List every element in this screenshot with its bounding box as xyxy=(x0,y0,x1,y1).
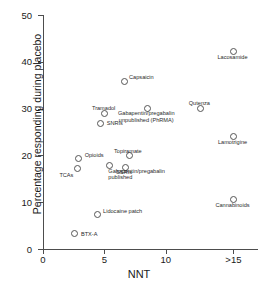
data-point[interactable] xyxy=(121,78,128,85)
scatter-chart: 01020304050 0510>15 Percentage respondin… xyxy=(0,0,278,290)
y-tick-label: 30 xyxy=(6,104,32,114)
y-axis-title: Percentage responding during placebo xyxy=(31,24,43,224)
data-point-label: Capsaicin xyxy=(129,74,154,80)
data-point-label: Lamotrigine xyxy=(218,139,247,145)
x-axis-title: NNT xyxy=(0,268,278,280)
y-tick-label: 0 xyxy=(6,245,32,255)
data-point-label: Topiramate xyxy=(114,148,142,154)
x-axis-line xyxy=(43,249,258,250)
y-tick-label: 20 xyxy=(6,151,32,161)
data-point-label: Lacosamide xyxy=(217,54,247,60)
y-tick-label: 50 xyxy=(6,11,32,21)
data-point-label: Qutenza xyxy=(189,100,210,106)
data-point-label: TCAs xyxy=(59,172,73,178)
data-point[interactable] xyxy=(94,211,101,218)
x-tick-label: 0 xyxy=(28,254,58,265)
y-tick-label: 10 xyxy=(6,198,32,208)
x-tick-label: 5 xyxy=(89,254,119,265)
data-point-label: Lidocaine patch xyxy=(103,208,142,214)
data-point-label: SSRIs xyxy=(116,169,132,175)
data-point-label: Gabapentin/pregabalin unpublished (PhRMA… xyxy=(118,110,175,123)
x-tick-label: >15 xyxy=(218,254,248,265)
data-point-label: Cannabinoids xyxy=(215,202,249,208)
data-point-label: Tramadol xyxy=(92,105,115,111)
x-tick-label: 10 xyxy=(151,254,181,265)
data-point-label: BTX-A xyxy=(81,231,97,237)
data-point-label: Opioids xyxy=(85,152,104,158)
y-tick-label: 40 xyxy=(6,57,32,67)
plot-area xyxy=(43,15,258,249)
